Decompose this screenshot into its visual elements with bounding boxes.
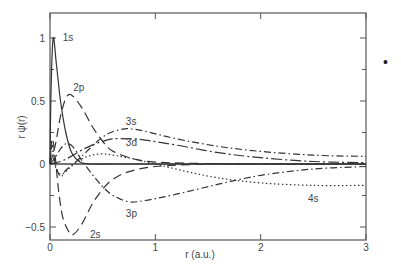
- y-tick-label: 1: [39, 33, 45, 44]
- curve-3d: [50, 139, 366, 164]
- curve-label-1s: 1s: [63, 32, 74, 43]
- curve-2p: [50, 94, 366, 164]
- x-axis-label: r (a.u.): [185, 249, 214, 260]
- orbital-wavefunction-chart: 0123−0.500.51 1s2p3s3d3p2s4s r (a.u.) r …: [0, 0, 401, 273]
- axis-ticks: 0123−0.500.51: [25, 13, 369, 253]
- y-tick-label: −0.5: [25, 222, 45, 233]
- curve-label-4s: 4s: [308, 193, 319, 204]
- curves: [50, 37, 366, 235]
- curve-3s: [50, 129, 366, 177]
- curve-label-2p: 2p: [73, 82, 85, 93]
- x-tick-label: 0: [47, 242, 53, 253]
- x-tick-label: 1: [153, 242, 159, 253]
- curve-labels: 1s2p3s3d3p2s4s: [63, 32, 319, 240]
- curve-label-3p: 3p: [126, 208, 138, 219]
- y-tick-label: 0: [39, 159, 45, 170]
- curve-label-3d: 3d: [126, 137, 137, 148]
- curve-label-2s: 2s: [90, 229, 101, 240]
- bullet-marker: •: [383, 54, 388, 70]
- x-tick-label: 3: [363, 242, 369, 253]
- y-tick-label: 0.5: [31, 96, 45, 107]
- x-tick-label: 2: [258, 242, 264, 253]
- y-axis-label: r ψ(r): [16, 115, 27, 138]
- curve-label-3s: 3s: [126, 116, 137, 127]
- plot-frame: [50, 13, 366, 240]
